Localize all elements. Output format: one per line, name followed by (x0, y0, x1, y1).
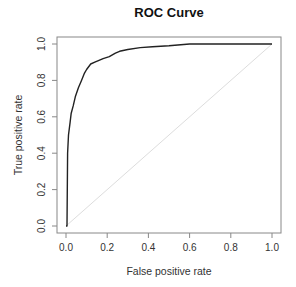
random-baseline-line (66, 44, 272, 226)
x-tick-label: 0.2 (100, 242, 114, 253)
y-axis-label: True positive rate (12, 94, 24, 175)
x-tick-label: 0.8 (224, 242, 238, 253)
y-tick-label: 0.0 (36, 219, 47, 233)
x-tick-label: 0.0 (59, 242, 73, 253)
x-tick-label: 0.4 (141, 242, 155, 253)
x-axis: 0.00.20.40.60.81.0 (59, 233, 279, 253)
y-tick-label: 0.8 (36, 73, 47, 87)
y-tick-label: 0.2 (36, 182, 47, 196)
chart-title: ROC Curve (134, 5, 203, 20)
roc-chart: ROC Curve 0.00.20.40.60.81.0 0.00.20.40.… (0, 0, 296, 287)
y-axis: 0.00.20.40.60.81.0 (36, 37, 57, 233)
y-tick-label: 0.6 (36, 109, 47, 123)
y-tick-label: 0.4 (36, 146, 47, 160)
y-tick-label: 1.0 (36, 37, 47, 51)
x-tick-label: 0.6 (183, 242, 197, 253)
x-axis-label: False positive rate (126, 265, 211, 277)
x-tick-label: 1.0 (265, 242, 279, 253)
